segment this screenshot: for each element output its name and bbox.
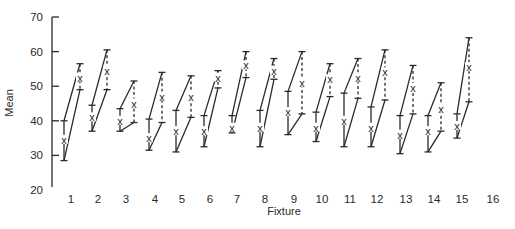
fixture-group: xx	[172, 76, 195, 152]
mean-marker-x: x	[104, 65, 110, 77]
y-axis-title: Mean	[3, 89, 15, 117]
mean-marker-x: x	[77, 72, 83, 84]
mean-marker-x: x	[188, 91, 194, 103]
mean-marker-x: x	[271, 65, 277, 77]
x-tick-label: 8	[262, 193, 268, 205]
fixture-group: xx	[145, 72, 166, 150]
x-tick-label: 5	[179, 193, 185, 205]
mean-marker-x: x	[299, 77, 305, 89]
mean-marker-x: x	[285, 106, 291, 118]
mean-marker-x: x	[89, 111, 95, 123]
fixture-group: xx	[228, 52, 250, 134]
mean-marker-x: x	[61, 134, 67, 146]
mean-marker-x: x	[117, 115, 123, 127]
x-tick-label: 1	[68, 193, 74, 205]
x-tick-label: 2	[95, 193, 101, 205]
fixture-group: xx	[116, 81, 138, 131]
x-tick-label: 3	[123, 193, 129, 205]
mean-marker-x: x	[201, 125, 207, 137]
fixture-group: xx	[367, 50, 389, 147]
mean-marker-x: x	[159, 91, 165, 103]
x-tick-label: 4	[152, 193, 159, 205]
mean-marker-x: x	[215, 72, 221, 84]
x-tick-label: 12	[371, 193, 384, 205]
x-tick-label: 11	[344, 193, 356, 205]
x-tick-label: 15	[456, 193, 469, 205]
interval-chart: 203040506070 Mean 1234567891011121314151…	[0, 0, 515, 229]
fixture-group: xx	[312, 64, 334, 142]
fixture-group: xx	[340, 59, 362, 147]
bottom-connector	[204, 88, 218, 147]
fixture-group: xx	[60, 64, 84, 161]
fixture-group: xx	[424, 83, 445, 152]
mean-marker-x: x	[438, 103, 444, 115]
fixture-group: xx	[453, 38, 473, 138]
mean-marker-x: x	[341, 115, 347, 127]
y-tick-label: 60	[30, 46, 43, 58]
y-tick-label: 40	[30, 115, 43, 127]
mean-marker-x: x	[313, 122, 319, 134]
top-connector	[371, 50, 385, 107]
x-tick-label: 16	[487, 193, 500, 205]
mean-marker-x: x	[425, 125, 431, 137]
x-tick-label: 9	[291, 193, 297, 205]
mean-marker-x: x	[229, 122, 235, 134]
mean-marker-x: x	[257, 122, 263, 134]
mean-marker-x: x	[410, 82, 416, 94]
mean-marker-x: x	[131, 98, 137, 110]
mean-marker-x: x	[382, 66, 388, 78]
fixture-group: xx	[88, 50, 111, 131]
fixture-group: xx	[200, 71, 222, 147]
bottom-connector	[64, 90, 80, 161]
mean-marker-x: x	[397, 129, 403, 141]
y-tick-labels: 203040506070	[30, 11, 43, 196]
mean-marker-x: x	[243, 59, 249, 71]
fixture-group: xx	[396, 65, 417, 153]
x-tick-label: 10	[316, 193, 329, 205]
x-axis-title: Fixture	[267, 205, 301, 217]
top-connector	[457, 38, 469, 114]
x-tick-label: 6	[207, 193, 213, 205]
x-tick-label: 7	[234, 193, 240, 205]
y-tick-label: 70	[30, 11, 43, 23]
fixture-group: xx	[256, 59, 278, 147]
mean-marker-x: x	[454, 120, 460, 132]
mean-marker-x: x	[146, 132, 152, 144]
y-tick-label: 50	[30, 80, 43, 92]
mean-marker-x: x	[355, 72, 361, 84]
mean-marker-x: x	[368, 122, 374, 134]
x-tick-labels: 12345678910111213141516	[68, 193, 500, 205]
fixture-group: xx	[284, 52, 306, 135]
y-axis	[52, 17, 59, 187]
bottom-connector	[260, 79, 274, 146]
mean-marker-x: x	[327, 73, 333, 85]
x-tick-label: 13	[400, 193, 413, 205]
x-tick-label: 14	[428, 193, 441, 205]
y-tick-label: 30	[30, 149, 43, 161]
mean-marker-x: x	[466, 61, 472, 73]
y-tick-label: 20	[30, 184, 43, 196]
mean-marker-x: x	[173, 125, 179, 137]
fixture-intervals: xxxxxxxxxxxxxxxxxxxxxxxxxxxxxx	[60, 38, 473, 161]
